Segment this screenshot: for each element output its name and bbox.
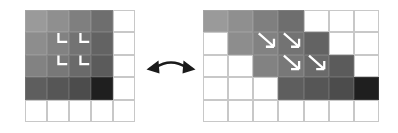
grid-cell-empty	[354, 55, 379, 77]
arrow-head-right	[183, 61, 196, 74]
grid-cell-filled	[25, 55, 47, 77]
grid-cell-filled	[278, 32, 303, 54]
grid-cell-filled	[47, 77, 69, 99]
grid-cell-empty	[113, 32, 135, 54]
grid-cell-filled	[329, 55, 354, 77]
grid-cell-filled	[354, 77, 379, 99]
grid-cell-filled	[304, 55, 329, 77]
grid-cell-filled	[25, 32, 47, 54]
grid-cell-empty	[329, 100, 354, 122]
grid-cell-empty	[203, 55, 228, 77]
grid-cell-empty	[329, 32, 354, 54]
grid-cell-empty	[278, 100, 303, 122]
grid-cell-empty	[253, 77, 278, 99]
grid-cell-filled	[203, 10, 228, 32]
sheared-grid	[203, 10, 379, 122]
shear-transformation-figure	[0, 0, 398, 133]
grid-cell-filled	[69, 55, 91, 77]
grid-cell-filled	[91, 10, 113, 32]
grid-cell-filled	[47, 32, 69, 54]
grid-cell-filled	[278, 10, 303, 32]
grid-cell-filled	[47, 10, 69, 32]
grid-cell-filled	[228, 10, 253, 32]
grid-cell-filled	[329, 77, 354, 99]
grid-cell-filled	[253, 55, 278, 77]
grid-cell-empty	[354, 10, 379, 32]
grid-cell-empty	[203, 32, 228, 54]
grid-cell-empty	[354, 100, 379, 122]
grid-cell-empty	[113, 55, 135, 77]
double-headed-curved-arrow	[145, 52, 197, 82]
grid-cell-filled	[91, 55, 113, 77]
grid-cell-empty	[25, 100, 47, 122]
grid-cell-filled	[25, 77, 47, 99]
original-grid	[25, 10, 135, 122]
grid-cell-filled	[69, 10, 91, 32]
grid-cell-filled	[253, 32, 278, 54]
grid-cell-empty	[304, 100, 329, 122]
grid-cell-empty	[91, 100, 113, 122]
arrow-head-left	[147, 61, 160, 74]
grid-cell-filled	[253, 10, 278, 32]
grid-cell-empty	[69, 100, 91, 122]
grid-cell-empty	[113, 100, 135, 122]
grid-cell-filled	[278, 77, 303, 99]
grid-cell-filled	[47, 55, 69, 77]
grid-cell-filled	[228, 32, 253, 54]
grid-cell-filled	[69, 32, 91, 54]
grid-cell-filled	[91, 77, 113, 99]
arrow-curve	[156, 63, 187, 68]
grid-cell-empty	[354, 32, 379, 54]
grid-cell-filled	[91, 32, 113, 54]
grid-cell-filled	[304, 32, 329, 54]
grid-cell-empty	[329, 10, 354, 32]
grid-cell-empty	[203, 77, 228, 99]
grid-cell-empty	[304, 10, 329, 32]
grid-cell-empty	[228, 77, 253, 99]
grid-cell-filled	[278, 55, 303, 77]
grid-cell-empty	[253, 100, 278, 122]
grid-cell-filled	[25, 10, 47, 32]
grid-cell-empty	[113, 10, 135, 32]
grid-cell-empty	[113, 77, 135, 99]
grid-cell-filled	[304, 77, 329, 99]
grid-cell-filled	[69, 77, 91, 99]
grid-cell-empty	[47, 100, 69, 122]
grid-cell-empty	[228, 55, 253, 77]
grid-cell-empty	[203, 100, 228, 122]
grid-cell-empty	[228, 100, 253, 122]
